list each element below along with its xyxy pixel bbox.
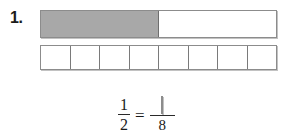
- eighths-bar-segment[interactable]: [99, 46, 129, 69]
- fraction-numerator: 1: [118, 97, 130, 114]
- answer-input-box[interactable]: [161, 96, 163, 114]
- fraction-answer: 8: [150, 98, 176, 133]
- fraction-denominator: 2: [118, 114, 130, 133]
- halves-bar-segment-shaded: [41, 11, 158, 37]
- equals-sign: =: [135, 107, 145, 133]
- answer-numerator-slot: [161, 98, 163, 115]
- eighths-bar-segment[interactable]: [129, 46, 159, 69]
- eighths-bar-segment[interactable]: [70, 46, 100, 69]
- eighths-bar-segment[interactable]: [247, 46, 277, 69]
- eighths-bar-segment[interactable]: [41, 46, 70, 69]
- eighths-bar-segment[interactable]: [217, 46, 247, 69]
- eighths-bar-segment[interactable]: [188, 46, 218, 69]
- equivalent-fraction-equation: 1 2 = 8: [118, 78, 175, 133]
- worksheet-problem: 1. 1 2 = 8: [0, 0, 289, 135]
- halves-bar-model: [40, 10, 277, 38]
- eighths-bar-model: [40, 45, 277, 70]
- fraction-one-half: 1 2: [118, 97, 130, 133]
- eighths-bar-segment[interactable]: [158, 46, 188, 69]
- halves-bar-segment-unshaded: [158, 11, 276, 37]
- fraction-denominator: 8: [150, 115, 176, 133]
- problem-number: 1.: [10, 9, 23, 27]
